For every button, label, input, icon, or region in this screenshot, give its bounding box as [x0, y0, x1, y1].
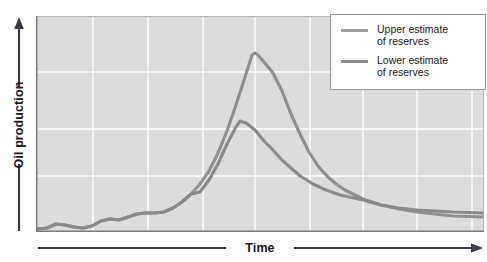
y-axis-label-text: Oil production [12, 81, 26, 168]
legend-swatch-upper-estimate [341, 29, 368, 32]
plot-area: Upper estimate of reserves Lower estimat… [36, 16, 484, 232]
legend-label-lower-estimate: Lower estimate of reserves [377, 54, 448, 78]
legend-swatch-lower-estimate [341, 60, 368, 63]
x-axis-group: Time [36, 238, 484, 258]
legend-label-upper-estimate-line1: Upper estimate [377, 23, 448, 35]
oil-production-peak-chart: Upper estimate of reserves Lower estimat… [0, 0, 487, 262]
chart-legend: Upper estimate of reserves Lower estimat… [330, 14, 486, 90]
legend-label-upper-estimate: Upper estimate of reserves [377, 23, 448, 47]
plot-left-inner-edge [36, 16, 38, 232]
legend-label-lower-estimate-line2: of reserves [377, 66, 448, 78]
x-axis-label-text: Time [238, 241, 281, 255]
x-axis-label: Time [36, 238, 484, 258]
legend-item-upper-estimate: Upper estimate of reserves [341, 23, 485, 47]
y-axis-group: Oil production [4, 16, 34, 233]
legend-item-lower-estimate: Lower estimate of reserves [341, 54, 485, 78]
y-axis-label: Oil production [4, 16, 34, 233]
legend-label-upper-estimate-line2: of reserves [377, 35, 448, 47]
legend-label-lower-estimate-line1: Lower estimate [377, 54, 448, 66]
